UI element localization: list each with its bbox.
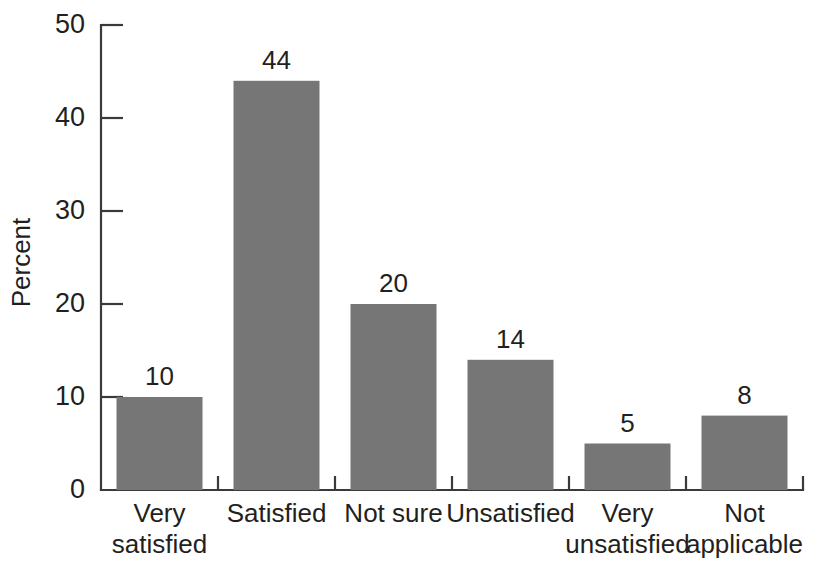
y-axis-tick-label: 20 bbox=[55, 288, 85, 318]
bar bbox=[585, 444, 671, 491]
bar-value-label: 44 bbox=[262, 45, 291, 75]
x-axis-category-label: Satisfied bbox=[227, 498, 327, 528]
y-axis-title: Percent bbox=[6, 217, 36, 307]
y-axis-tick-label: 40 bbox=[55, 102, 85, 132]
chart-canvas: 01020304050 1044201458 VerysatisfiedSati… bbox=[0, 0, 816, 581]
x-axis-category-label: Very bbox=[601, 498, 653, 528]
category-labels: VerysatisfiedSatisfiedNot sureUnsatisfie… bbox=[112, 498, 803, 559]
bar bbox=[234, 81, 320, 490]
x-axis-category-label: satisfied bbox=[112, 529, 207, 559]
x-axis-category-label: unsatisfied bbox=[565, 529, 689, 559]
y-axis-title-text: Percent bbox=[6, 217, 36, 307]
bar-value-label: 14 bbox=[496, 324, 525, 354]
y-axis-tick-label: 50 bbox=[55, 9, 85, 39]
y-axis-tick-label: 10 bbox=[55, 381, 85, 411]
bar-value-label: 20 bbox=[379, 268, 408, 298]
y-axis-tick-label: 0 bbox=[70, 474, 85, 504]
x-axis-category-label: Very bbox=[133, 498, 185, 528]
bar-value-label: 8 bbox=[737, 380, 751, 410]
bar bbox=[351, 304, 437, 490]
bar bbox=[468, 360, 554, 490]
bar-value-label: 10 bbox=[145, 361, 174, 391]
x-axis-category-label: Not bbox=[724, 498, 765, 528]
bars-series bbox=[117, 81, 788, 490]
y-axis: 01020304050 bbox=[55, 9, 123, 504]
bar-chart: 01020304050 1044201458 VerysatisfiedSati… bbox=[0, 0, 816, 581]
bar-value-label: 5 bbox=[620, 408, 634, 438]
x-axis-category-label: Not sure bbox=[344, 498, 442, 528]
x-axis-category-label: applicable bbox=[686, 529, 803, 559]
bar bbox=[702, 416, 788, 490]
y-axis-tick-label: 30 bbox=[55, 195, 85, 225]
x-axis bbox=[101, 476, 803, 490]
x-axis-category-label: Unsatisfied bbox=[446, 498, 575, 528]
bar bbox=[117, 397, 203, 490]
